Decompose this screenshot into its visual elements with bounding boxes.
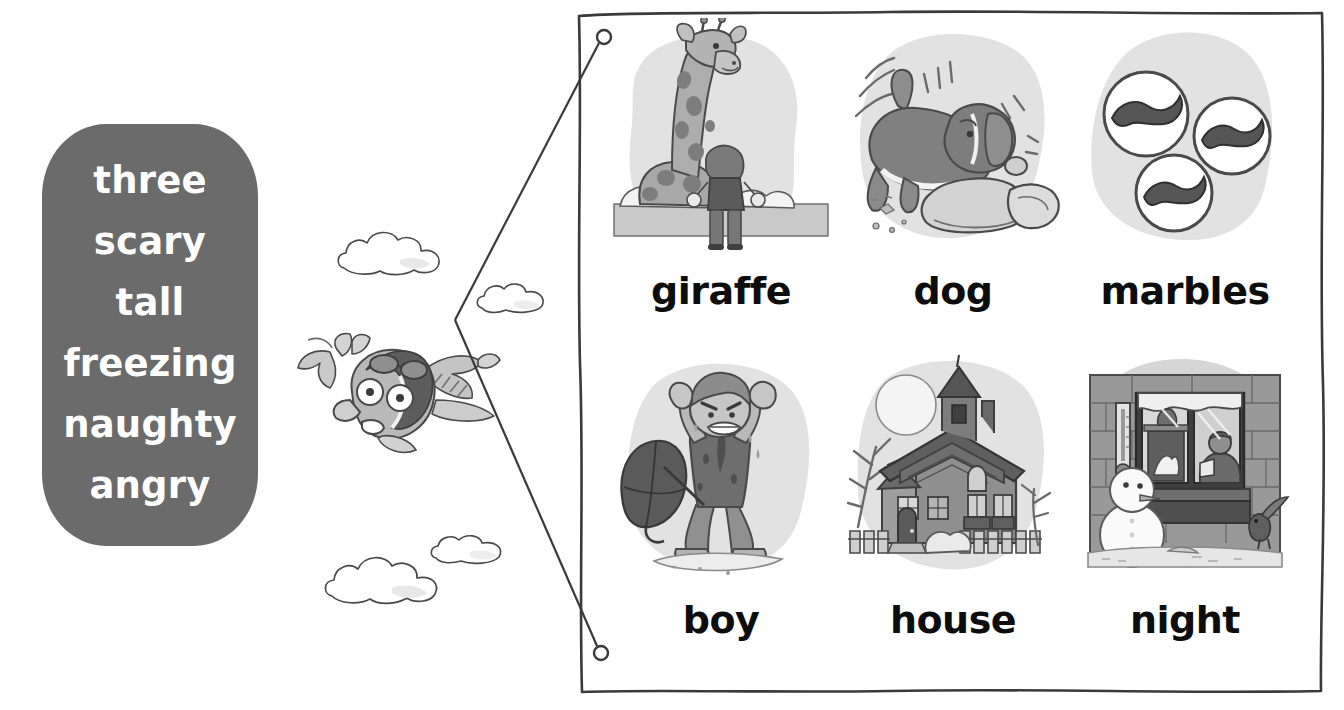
picture-label-marbles: marbles [1100,272,1269,310]
picture-label-dog: dog [913,272,992,310]
picture-answer-panel: giraffe [570,4,1332,704]
giraffe-with-child-icon [610,18,832,270]
picture-cell-dog[interactable]: dog [840,18,1066,339]
picture-grid: giraffe [608,18,1298,668]
cloud-bottom-right [428,532,512,566]
word-bank-item-three[interactable]: three [93,162,206,199]
three-marbles-icon [1074,18,1296,270]
picture-label-giraffe: giraffe [651,272,791,310]
cloud-top-right [474,280,552,316]
picture-label-night: night [1130,601,1240,639]
word-bank-item-tall[interactable]: tall [116,284,185,321]
adjective-word-bank: three scary tall freezing naughty angry [42,124,258,546]
snowman-window-night-icon [1074,347,1296,599]
spooky-house-with-moon-icon [842,347,1064,599]
picture-cell-giraffe[interactable]: giraffe [608,18,834,339]
picture-cell-night[interactable]: night [1072,347,1298,668]
dog-chewing-cushion-icon [842,18,1064,270]
picture-label-house: house [890,601,1016,639]
word-bank-item-angry[interactable]: angry [89,467,210,504]
picture-cell-boy[interactable]: boy [608,347,834,668]
word-bank-item-scary[interactable]: scary [94,223,206,260]
picture-cell-house[interactable]: house [840,347,1066,668]
picture-cell-marbles[interactable]: marbles [1072,18,1298,339]
cloud-top-left [334,226,458,280]
picture-label-boy: boy [683,601,760,639]
angry-wet-boy-with-umbrella-icon [610,347,832,599]
word-bank-item-freezing[interactable]: freezing [63,345,236,382]
word-bank-item-naughty[interactable]: naughty [63,406,237,443]
flying-bird-aviator-icon [292,330,516,472]
